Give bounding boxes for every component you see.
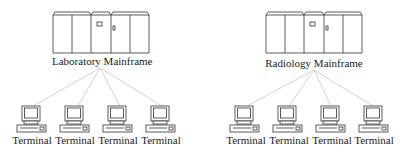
radiology-mainframe-icon [265, 10, 363, 59]
terminal-label: Terminal [133, 134, 189, 146]
mainframe-label: Laboratory Mainframe [52, 55, 150, 67]
terminal-label: Terminal [346, 134, 402, 146]
laboratory-mainframe-icon [52, 10, 150, 59]
mainframe-label: Radiology Mainframe [265, 57, 363, 69]
